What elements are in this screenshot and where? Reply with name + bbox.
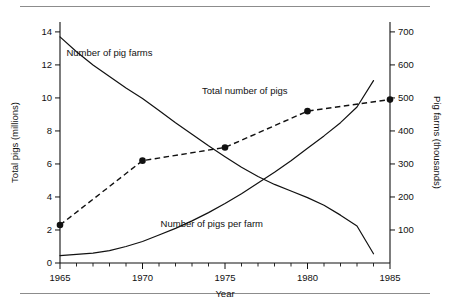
x-tick-label: 1965 [49, 272, 70, 283]
y-tick-label-left: 0 [47, 257, 52, 268]
y-tick-label-left: 10 [41, 92, 52, 103]
y-axis-title-left: Total pigs (millions) [9, 102, 20, 183]
data-point-marker [304, 108, 311, 115]
y-tick-label-right: 300 [398, 158, 414, 169]
y-tick-label-left: 4 [47, 191, 52, 202]
y-tick-label-right: 400 [398, 125, 414, 136]
series-label-0: Total number of pigs [202, 85, 288, 96]
annotations-group: 0246810121410020030040050060070019651970… [9, 26, 443, 299]
chart-figure: 0246810121410020030040050060070019651970… [0, 0, 450, 302]
y-tick-label-right: 500 [398, 92, 414, 103]
x-tick-label: 1985 [379, 272, 400, 283]
series-line-2 [60, 81, 374, 256]
y-tick-label-right: 100 [398, 224, 414, 235]
y-tick-label-left: 12 [41, 59, 52, 70]
x-tick-label: 1975 [214, 272, 235, 283]
data-point-marker [57, 222, 64, 229]
x-tick-label: 1970 [132, 272, 153, 283]
data-point-marker [222, 144, 229, 151]
y-axis-title-right: Pig farms (thousands) [432, 96, 443, 189]
y-tick-label-left: 8 [47, 125, 52, 136]
series-label-1: Number of pig farms [66, 47, 152, 58]
x-axis-title: Year [215, 288, 234, 299]
y-tick-label-right: 600 [398, 59, 414, 70]
data-point-marker [387, 96, 394, 103]
y-tick-label-left: 14 [41, 26, 52, 37]
series-label-2: Number of pigs per farm [161, 218, 264, 229]
y-tick-label-right: 200 [398, 191, 414, 202]
y-tick-label-left: 6 [47, 158, 52, 169]
x-tick-label: 1980 [297, 272, 318, 283]
y-tick-label-left: 2 [47, 224, 52, 235]
series-line-0 [60, 100, 390, 225]
y-tick-label-right: 700 [398, 26, 414, 37]
chart-plot: 0246810121410020030040050060070019651970… [0, 0, 450, 302]
data-point-marker [139, 157, 146, 164]
